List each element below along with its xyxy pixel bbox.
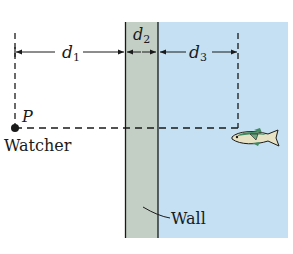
watcher-point: [11, 124, 19, 132]
wall-label: Wall: [171, 209, 206, 228]
point-p-label: P: [21, 107, 33, 126]
water-region: [158, 22, 288, 238]
refraction-diagram: d1 d2 d3 P Watcher Wall: [0, 0, 293, 254]
d1-label: d1: [62, 42, 80, 64]
watcher-label: Watcher: [4, 136, 72, 155]
wall-region: [125, 22, 158, 238]
